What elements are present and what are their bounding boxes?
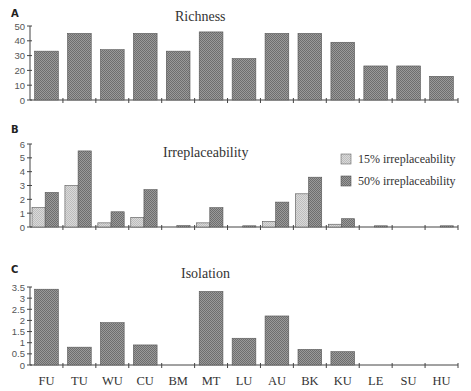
- bar-cu-50: [144, 190, 157, 227]
- category-label-fu: FU: [38, 374, 54, 388]
- legend-swatch-15-icon: [341, 154, 351, 164]
- y-tick-label: 50: [14, 21, 25, 32]
- panel-a-letter: A: [11, 8, 19, 19]
- y-tick-label: 30: [14, 50, 25, 61]
- bar-hu: [430, 76, 454, 100]
- panel-c: C Isolation 00.511.522.533.5 FUTUWUCUBMM…: [11, 264, 458, 388]
- y-tick-label: 3: [20, 293, 25, 304]
- category-label-su: SU: [401, 374, 417, 388]
- panel-b-title: Irreplaceability: [163, 145, 249, 160]
- bar-au: [265, 33, 289, 100]
- y-tick-label: 2: [20, 194, 25, 205]
- bar-mt-15: [197, 223, 210, 227]
- bar-bk: [298, 349, 322, 365]
- legend-label-15: 15% irreplaceability: [358, 152, 456, 166]
- y-tick-label: 1.5: [12, 326, 25, 337]
- y-tick-label: 1: [20, 337, 25, 348]
- bar-bm-50: [177, 226, 190, 227]
- bar-bk-50: [309, 177, 322, 227]
- category-label-mt: MT: [202, 374, 221, 388]
- richness-chart: 01020304050: [14, 21, 458, 106]
- y-tick-label: 6: [20, 139, 25, 150]
- panel-b-letter: B: [11, 124, 19, 135]
- legend: 15% irreplaceability 50% irreplaceabilit…: [341, 152, 456, 188]
- bar-bk-15: [295, 194, 308, 227]
- figure: A Richness 01020304050 B Irreplaceabilit…: [0, 0, 471, 391]
- bar-hu-50: [440, 226, 453, 227]
- y-tick-label: 3.5: [12, 282, 25, 293]
- bar-mt: [199, 291, 223, 365]
- bar-cu: [133, 345, 157, 365]
- y-tick-label: 20: [14, 65, 25, 76]
- bar-cu-15: [131, 217, 144, 227]
- bar-fu-50: [45, 192, 58, 227]
- bar-au-50: [276, 202, 289, 227]
- bar-tu: [68, 347, 92, 365]
- y-tick-label: 10: [14, 80, 25, 91]
- panel-b: B Irreplaceability 0123456 15% irreplace…: [11, 124, 458, 233]
- bar-wu-50: [111, 212, 124, 227]
- bar-fu: [35, 51, 59, 100]
- bar-su: [397, 66, 421, 100]
- bar-ku: [331, 42, 355, 100]
- y-tick-label: 1: [20, 208, 25, 219]
- panel-c-title: Isolation: [181, 266, 230, 281]
- bar-lu-50: [243, 226, 256, 227]
- y-tick-label: 2.5: [12, 304, 25, 315]
- bar-tu-50: [78, 151, 91, 227]
- bar-wu: [100, 50, 124, 100]
- category-label-wu: WU: [102, 374, 123, 388]
- category-label-bm: BM: [168, 374, 187, 388]
- bar-au-15: [262, 221, 275, 227]
- bar-le: [364, 66, 388, 100]
- y-tick-label: 5: [20, 152, 25, 163]
- y-tick-label: 0: [20, 360, 25, 371]
- bar-bm: [166, 51, 190, 100]
- category-label-lu: LU: [236, 374, 253, 388]
- bar-tu-15: [65, 186, 78, 228]
- figure-canvas: A Richness 01020304050 B Irreplaceabilit…: [0, 0, 471, 391]
- y-tick-label: 3: [20, 180, 25, 191]
- bar-bk: [298, 33, 322, 100]
- bar-cu: [133, 33, 157, 100]
- bar-au: [265, 316, 289, 365]
- bar-tu: [68, 33, 92, 100]
- category-label-cu: CU: [137, 374, 154, 388]
- y-tick-label: 0.5: [12, 348, 25, 359]
- bar-fu: [35, 289, 59, 365]
- bar-lu: [232, 59, 256, 100]
- category-label-ku: KU: [334, 374, 352, 388]
- y-tick-label: 0: [20, 95, 25, 106]
- y-tick-label: 40: [14, 35, 25, 46]
- category-label-hu: HU: [433, 374, 451, 388]
- bar-mt: [199, 32, 223, 100]
- category-labels: FUTUWUCUBMMTLUAUBKKULESUHU: [38, 374, 450, 388]
- bar-wu-15: [98, 223, 111, 227]
- bar-fu-15: [32, 208, 45, 227]
- category-label-le: LE: [368, 374, 384, 388]
- isolation-chart: 00.511.522.533.5: [12, 282, 458, 371]
- category-label-tu: TU: [71, 374, 88, 388]
- bar-lu: [232, 338, 256, 365]
- panel-c-letter: C: [11, 264, 18, 275]
- panel-a: A Richness 01020304050: [11, 8, 458, 106]
- bar-le-50: [374, 226, 387, 227]
- legend-label-50: 50% irreplaceability: [358, 174, 456, 188]
- bar-wu: [100, 323, 124, 365]
- panel-a-title: Richness: [175, 9, 226, 24]
- bar-ku-15: [328, 224, 341, 227]
- legend-swatch-50-icon: [341, 176, 351, 186]
- bar-mt-50: [210, 208, 223, 227]
- bar-ku: [331, 352, 355, 365]
- category-label-au: AU: [268, 374, 286, 388]
- bar-ku-50: [341, 219, 354, 227]
- y-tick-label: 4: [20, 166, 25, 177]
- category-label-bk: BK: [301, 374, 318, 388]
- y-tick-label: 0: [20, 222, 25, 233]
- y-tick-label: 2: [20, 315, 25, 326]
